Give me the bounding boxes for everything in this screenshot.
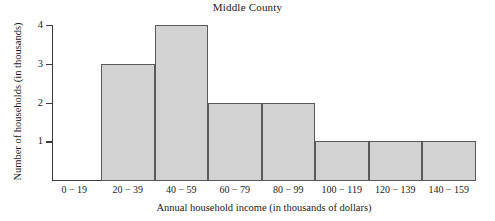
y-tick-label-2: 2	[30, 98, 43, 108]
histogram-bar-60-79	[208, 103, 262, 182]
histogram-bar-40-59	[155, 25, 209, 181]
histogram-bar-140-159	[422, 141, 476, 181]
y-tick-mark-4	[46, 25, 52, 26]
y-tick-mark-1	[46, 141, 52, 142]
x-tick-label-20-39: 20 − 39	[101, 184, 155, 195]
y-axis-line	[52, 25, 53, 181]
y-tick-mark-2	[46, 103, 52, 104]
plot-area: 4 3 2 1 0 − 19 20 − 39 40 − 59 60 − 79 8…	[0, 0, 495, 221]
y-tick-mark-3	[46, 64, 52, 65]
histogram-bar-80-99	[262, 103, 316, 182]
y-tick-label-4: 4	[30, 20, 43, 30]
histogram-bar-120-139	[369, 141, 423, 181]
histogram-figure: Middle County Number of households (in t…	[0, 0, 495, 221]
y-tick-label-1: 1	[30, 136, 43, 146]
y-tick-label-3: 3	[30, 59, 43, 69]
x-tick-label-80-99: 80 − 99	[262, 184, 316, 195]
histogram-bar-100-119	[315, 141, 369, 181]
histogram-bar-20-39	[101, 64, 155, 181]
x-tick-label-60-79: 60 − 79	[208, 184, 262, 195]
x-tick-label-40-59: 40 − 59	[155, 184, 209, 195]
x-axis-label: Annual household income (in thousands of…	[52, 202, 476, 213]
x-tick-label-140-159: 140 − 159	[422, 184, 476, 195]
x-tick-label-0-19: 0 − 19	[48, 184, 102, 195]
x-tick-label-100-119: 100 − 119	[315, 184, 369, 195]
x-tick-label-120-139: 120 − 139	[369, 184, 423, 195]
